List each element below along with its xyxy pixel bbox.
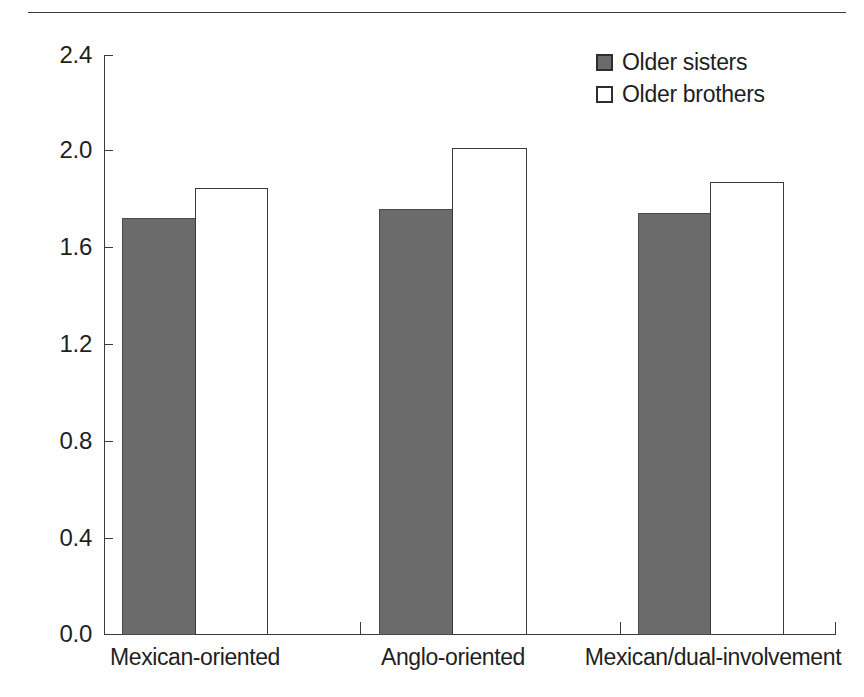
bar-older-brothers-mexican-oriented — [195, 188, 268, 635]
x-category-label-mexican-oriented: Mexican-oriented — [110, 642, 280, 672]
bar-chart-figure: 2.4 2.0 1.6 1.2 0.8 0.4 0.0 Mexican-orie… — [0, 0, 864, 697]
y-tick-label-1-2: 1.2 — [14, 332, 92, 356]
bar-older-brothers-mexican-dual-involvement — [710, 182, 784, 635]
y-tick-label-text: 0.8 — [18, 429, 92, 453]
y-tick-label-0-0: 0.0 — [14, 622, 92, 646]
y-tick-label-text: 2.4 — [18, 43, 92, 67]
y-tick-mark — [104, 55, 113, 56]
y-tick-label-text: 1.2 — [18, 332, 92, 356]
y-tick-label-text: 0.4 — [18, 526, 92, 550]
y-tick-mark — [104, 538, 113, 539]
y-tick-mark — [104, 150, 113, 151]
legend-swatch-filled-icon — [596, 54, 613, 71]
y-tick-label-text: 1.6 — [18, 235, 92, 259]
bar-older-sisters-anglo-oriented — [379, 209, 453, 635]
chart-legend: Older sisters Older brothers — [596, 46, 765, 110]
y-tick-label-0-8: 0.8 — [14, 429, 92, 453]
legend-item-older-brothers: Older brothers — [596, 78, 765, 110]
y-tick-label-2-0: 2.0 — [14, 138, 92, 162]
x-category-label-mexican-dual-involvement: Mexican/dual-involvement — [585, 642, 841, 672]
y-tick-label-1-6: 1.6 — [14, 235, 92, 259]
bar-older-sisters-mexican-dual-involvement — [638, 213, 711, 635]
legend-label: Older sisters — [622, 49, 747, 75]
x-tick-mark — [620, 622, 621, 634]
legend-swatch-hollow-icon — [596, 86, 613, 103]
y-tick-mark — [104, 441, 113, 442]
y-tick-mark — [104, 247, 113, 248]
y-tick-mark — [104, 344, 113, 345]
y-axis-line — [104, 55, 105, 635]
x-tick-mark — [360, 622, 361, 634]
legend-label: Older brothers — [622, 81, 765, 107]
y-tick-label-2-4: 2.4 — [14, 43, 92, 67]
y-tick-label-text: 0.0 — [18, 622, 92, 646]
y-tick-label-text: 2.0 — [18, 138, 92, 162]
x-category-label-anglo-oriented: Anglo-oriented — [381, 642, 525, 672]
y-tick-label-0-4: 0.4 — [14, 526, 92, 550]
x-tick-mark — [835, 622, 836, 634]
legend-item-older-sisters: Older sisters — [596, 46, 765, 78]
bar-older-brothers-anglo-oriented — [452, 148, 527, 635]
top-horizontal-rule — [28, 12, 846, 13]
bar-older-sisters-mexican-oriented — [122, 218, 196, 635]
